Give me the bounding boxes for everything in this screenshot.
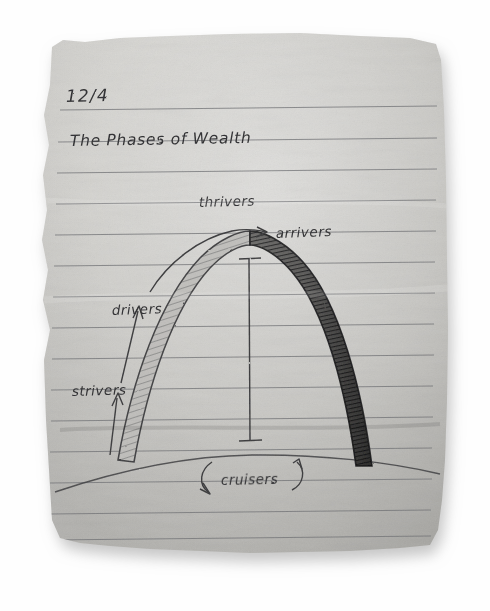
notebook-page-drawing: 12/4 The Phases of Wealth thrivers arriv… — [0, 0, 490, 611]
notebook-photo: 12/4 The Phases of Wealth thrivers arriv… — [0, 0, 490, 611]
